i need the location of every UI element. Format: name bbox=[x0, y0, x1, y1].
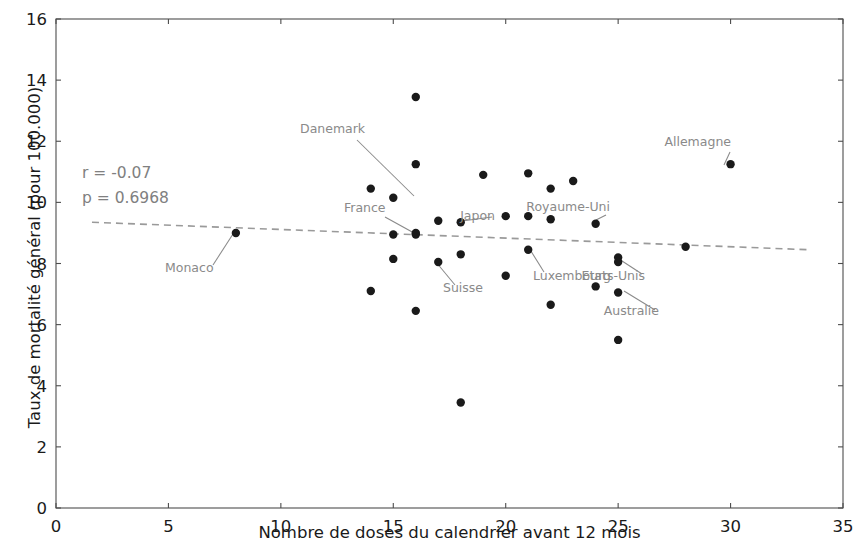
data-point bbox=[434, 258, 442, 266]
data-point bbox=[614, 336, 622, 344]
data-point bbox=[367, 184, 375, 192]
y-tick-label: 16 bbox=[26, 10, 47, 29]
data-point bbox=[502, 272, 510, 280]
stat-p: p = 0.6968 bbox=[82, 189, 169, 207]
data-point bbox=[457, 250, 465, 258]
data-point bbox=[412, 229, 420, 237]
data-point bbox=[367, 287, 375, 295]
data-point bbox=[412, 160, 420, 168]
data-point bbox=[614, 258, 622, 266]
data-point bbox=[726, 160, 734, 168]
point-label: Allemagne bbox=[664, 134, 731, 149]
data-point bbox=[389, 194, 397, 202]
data-point bbox=[569, 177, 577, 185]
data-point bbox=[546, 215, 554, 223]
point-label: France bbox=[344, 200, 386, 215]
stat-r: r = -0.07 bbox=[82, 164, 151, 182]
point-label: Danemark bbox=[300, 121, 366, 136]
data-point bbox=[412, 93, 420, 101]
y-tick-label: 0 bbox=[37, 499, 48, 518]
trend-line bbox=[92, 222, 809, 250]
data-point bbox=[524, 169, 532, 177]
data-point bbox=[232, 229, 240, 237]
data-point bbox=[681, 242, 689, 250]
data-point bbox=[591, 282, 599, 290]
data-point bbox=[412, 307, 420, 315]
data-points bbox=[232, 93, 735, 407]
y-axis-label: Taux de mortalité général (pour 100.000) bbox=[25, 38, 44, 478]
data-point bbox=[457, 398, 465, 406]
point-label: Royaume-Uni bbox=[526, 199, 610, 214]
data-point bbox=[434, 217, 442, 225]
point-label: Australie bbox=[604, 303, 660, 318]
data-point bbox=[591, 220, 599, 228]
scatter-plot-svg: DanemarkFranceJaponMonacoSuisseLuxembour… bbox=[0, 0, 853, 548]
data-point bbox=[546, 184, 554, 192]
data-point bbox=[502, 212, 510, 220]
data-point bbox=[524, 246, 532, 254]
point-label: Suisse bbox=[443, 280, 483, 295]
point-labels: DanemarkFranceJaponMonacoSuisseLuxembour… bbox=[165, 121, 731, 318]
x-axis-label: Nombre de doses du calendrier avant 12 m… bbox=[56, 523, 843, 542]
point-label: Japon bbox=[459, 208, 495, 223]
axis-tick-labels: 051015202530350246810121416 bbox=[26, 10, 853, 536]
data-point bbox=[389, 255, 397, 263]
data-point bbox=[546, 301, 554, 309]
point-label: Monaco bbox=[165, 260, 214, 275]
chart-canvas: DanemarkFranceJaponMonacoSuisseLuxembour… bbox=[0, 0, 853, 548]
data-point bbox=[479, 171, 487, 179]
point-label: Etats-Unis bbox=[582, 268, 645, 283]
data-point bbox=[389, 230, 397, 238]
data-point bbox=[614, 288, 622, 296]
